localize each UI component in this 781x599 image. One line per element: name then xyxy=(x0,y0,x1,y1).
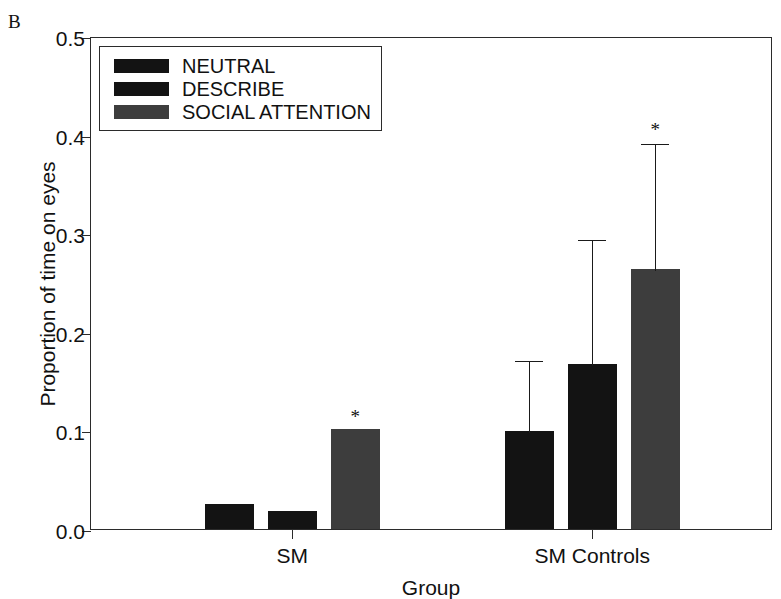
x-axis-title: Group xyxy=(402,577,460,598)
y-tick-label: 0.1 xyxy=(56,422,85,443)
legend: NEUTRALDESCRIBESOCIAL ATTENTION xyxy=(99,46,382,131)
legend-swatch xyxy=(114,59,169,73)
x-tick-mark xyxy=(592,529,593,539)
plot-area: Proportion of time on eyes 0.00.10.20.30… xyxy=(90,37,772,530)
error-bar-cap xyxy=(515,361,543,362)
legend-swatch xyxy=(114,82,169,96)
legend-item: DESCRIBE xyxy=(114,77,371,100)
bar xyxy=(505,431,554,529)
legend-swatch xyxy=(114,105,169,119)
error-bar-line xyxy=(592,240,593,366)
legend-label: DESCRIBE xyxy=(182,79,284,99)
legend-item: SOCIAL ATTENTION xyxy=(114,100,371,123)
y-tick-label: 0.5 xyxy=(56,28,85,49)
x-tick-label: SM Controls xyxy=(535,545,651,566)
y-tick-label: 0.0 xyxy=(56,521,85,542)
legend-label: SOCIAL ATTENTION xyxy=(182,102,371,122)
bar xyxy=(268,511,317,529)
legend-item: NEUTRAL xyxy=(114,54,371,77)
bar xyxy=(331,429,380,529)
error-bar-cap xyxy=(641,144,669,145)
y-tick-label: 0.4 xyxy=(56,126,85,147)
x-tick-label: SM xyxy=(276,545,308,566)
error-bar-line xyxy=(529,361,530,433)
bar xyxy=(631,269,680,529)
significance-marker: * xyxy=(651,120,661,139)
y-tick-label: 0.2 xyxy=(56,323,85,344)
bar xyxy=(205,504,254,529)
bar xyxy=(568,364,617,529)
x-tick-mark xyxy=(292,529,293,539)
error-bar-cap xyxy=(578,240,606,241)
y-tick-label: 0.3 xyxy=(56,225,85,246)
legend-label: NEUTRAL xyxy=(182,56,275,76)
y-axis-title: Proportion of time on eyes xyxy=(37,161,58,406)
panel-letter: B xyxy=(8,12,21,31)
error-bar-line xyxy=(655,144,656,271)
significance-marker: * xyxy=(350,407,360,426)
